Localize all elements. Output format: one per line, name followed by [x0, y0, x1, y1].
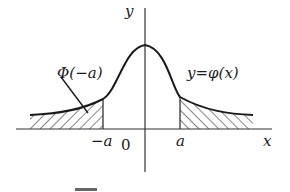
y-axis-label: y — [125, 4, 133, 19]
figure-graphic — [0, 0, 290, 192]
pos-a-tick-label: a — [176, 134, 185, 149]
normal-distribution-figure: y Φ(−a) y=φ(x) −a 0 a x — [0, 0, 290, 192]
curve-equation-label: y=φ(x) — [187, 66, 239, 81]
origin-label: 0 — [121, 138, 131, 153]
annotation-pointer — [61, 77, 88, 113]
phi-neg-a-label: Φ(−a) — [57, 66, 103, 81]
neg-a-tick-label: −a — [91, 134, 113, 149]
caption-partial-stroke — [75, 188, 97, 191]
x-axis-label: x — [263, 134, 271, 149]
